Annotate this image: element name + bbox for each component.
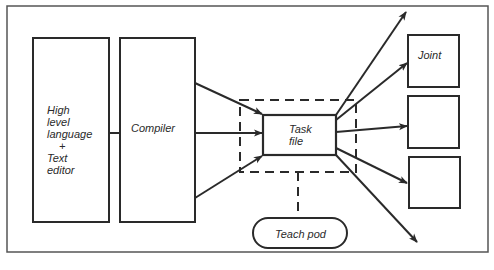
label-line: level <box>47 116 107 128</box>
label-line: editor <box>47 164 107 176</box>
arrow-task-to-top <box>336 12 406 115</box>
compiler-label: Compiler <box>131 122 175 134</box>
label-line: Text <box>47 152 107 164</box>
joint-box-2 <box>408 96 459 148</box>
source-editor-label: High level language + Text editor <box>47 104 107 176</box>
arrow-task-to-joint-1 <box>336 63 407 120</box>
joint-label: Joint <box>418 49 441 61</box>
arrow-compiler-to-task-3 <box>195 156 262 198</box>
joint-box-1 <box>408 35 459 87</box>
label-line: file <box>289 135 312 147</box>
label-line: Task <box>289 123 312 135</box>
label-plus: + <box>47 140 107 152</box>
arrow-compiler-to-task-1 <box>195 83 262 114</box>
teach-pod-label: Teach pod <box>275 228 326 240</box>
label-line: High <box>47 104 107 116</box>
joint-box-3 <box>409 157 460 208</box>
arrow-task-to-joint-2 <box>336 126 407 132</box>
label-line: language <box>47 128 107 140</box>
task-file-label: Task file <box>289 123 312 147</box>
